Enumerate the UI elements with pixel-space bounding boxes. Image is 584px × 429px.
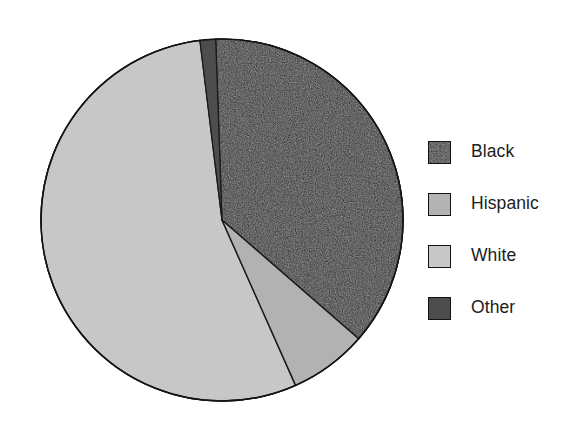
legend-item-white[interactable]: White (428, 230, 578, 282)
legend-item-other[interactable]: Other (428, 282, 578, 334)
pie-chart-figure: Black Hispanic White Other (0, 0, 584, 429)
pie-chart-plot-area (0, 0, 420, 429)
pie-chart-svg (0, 0, 420, 429)
legend-item-black[interactable]: Black (428, 126, 578, 178)
legend-label-other: Other (471, 299, 515, 317)
legend-label-black: Black (471, 143, 514, 161)
legend-swatch-white (428, 245, 451, 268)
legend-label-hispanic: Hispanic (471, 195, 539, 213)
legend-swatch-black (428, 141, 451, 164)
legend-item-hispanic[interactable]: Hispanic (428, 178, 578, 230)
legend-swatch-hispanic (428, 193, 451, 216)
legend-label-white: White (471, 247, 516, 265)
legend-swatch-other (428, 297, 451, 320)
legend: Black Hispanic White Other (428, 126, 578, 334)
